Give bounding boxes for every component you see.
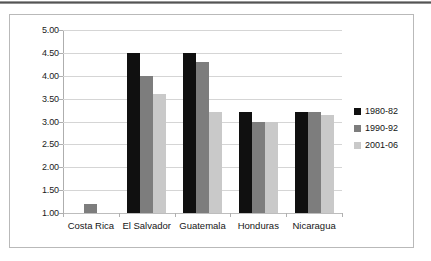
x-axis-tick-mark xyxy=(342,213,343,217)
bar xyxy=(196,62,209,213)
y-axis-tick-mark xyxy=(59,122,63,123)
bar-group xyxy=(119,30,175,213)
x-axis-category-label: Nicaragua xyxy=(286,220,342,232)
bar xyxy=(209,112,222,213)
x-axis-tick-mark xyxy=(175,213,176,217)
bar-group xyxy=(175,30,231,213)
y-axis-tick-mark xyxy=(59,213,63,214)
bar xyxy=(308,112,321,213)
y-axis-tick-mark xyxy=(59,167,63,168)
legend-label: 1990-92 xyxy=(365,124,398,133)
legend-item[interactable]: 1990-92 xyxy=(354,120,416,137)
x-axis-category-labels: Costa RicaEl SalvadorGuatemalaHondurasNi… xyxy=(63,220,342,236)
bar-group xyxy=(63,30,119,213)
y-axis-tick-label: 5.00 xyxy=(17,26,59,35)
legend-label: 1980-82 xyxy=(365,107,398,116)
bar xyxy=(127,53,140,213)
bar xyxy=(84,204,97,213)
y-axis-tick-label: 2.00 xyxy=(17,163,59,172)
legend-item[interactable]: 2001-06 xyxy=(354,137,416,154)
gridline xyxy=(63,213,342,214)
legend-swatch-icon xyxy=(354,142,361,149)
x-axis-category-label: Honduras xyxy=(230,220,286,232)
y-axis-tick-label: 4.00 xyxy=(17,72,59,81)
x-axis-tick-mark xyxy=(63,213,64,217)
legend-swatch-icon xyxy=(354,108,361,115)
y-axis-tick-mark xyxy=(59,76,63,77)
bar xyxy=(239,112,252,213)
bar xyxy=(252,122,265,214)
y-axis-tick-label: 3.50 xyxy=(17,95,59,104)
bar-group xyxy=(230,30,286,213)
x-axis-category-label: Guatemala xyxy=(175,220,231,232)
y-axis-tick-label: 1.50 xyxy=(17,186,59,195)
bar xyxy=(265,122,278,214)
x-axis-category-label: Costa Rica xyxy=(63,220,119,232)
y-axis-tick-mark xyxy=(59,190,63,191)
y-axis-tick-mark xyxy=(59,53,63,54)
x-axis-tick-mark xyxy=(119,213,120,217)
bar xyxy=(153,94,166,213)
x-axis-tick-mark xyxy=(286,213,287,217)
chart-legend: 1980-821990-922001-06 xyxy=(354,103,416,154)
plot-area xyxy=(63,30,342,213)
y-axis-tick-mark xyxy=(59,30,63,31)
legend-label: 2001-06 xyxy=(365,141,398,150)
y-axis-tick-mark xyxy=(59,99,63,100)
y-axis-tick-label: 2.50 xyxy=(17,140,59,149)
y-axis-tick-label: 1.00 xyxy=(17,209,59,218)
y-axis-tick-mark xyxy=(59,144,63,145)
scan-artifact-strip xyxy=(0,1,431,4)
bar-group xyxy=(286,30,342,213)
bar xyxy=(295,112,308,213)
chart-container: 5.004.504.003.503.002.502.001.501.00 Cos… xyxy=(9,14,414,248)
y-axis-tick-label: 4.50 xyxy=(17,49,59,58)
bar xyxy=(140,76,153,213)
x-axis-tick-mark xyxy=(230,213,231,217)
bar xyxy=(183,53,196,213)
legend-item[interactable]: 1980-82 xyxy=(354,103,416,120)
x-axis-category-label: El Salvador xyxy=(119,220,175,232)
legend-swatch-icon xyxy=(354,125,361,132)
y-axis-tick-label: 3.00 xyxy=(17,118,59,127)
y-axis-tick-labels: 5.004.504.003.503.002.502.001.501.00 xyxy=(14,30,59,213)
bar xyxy=(321,115,334,213)
